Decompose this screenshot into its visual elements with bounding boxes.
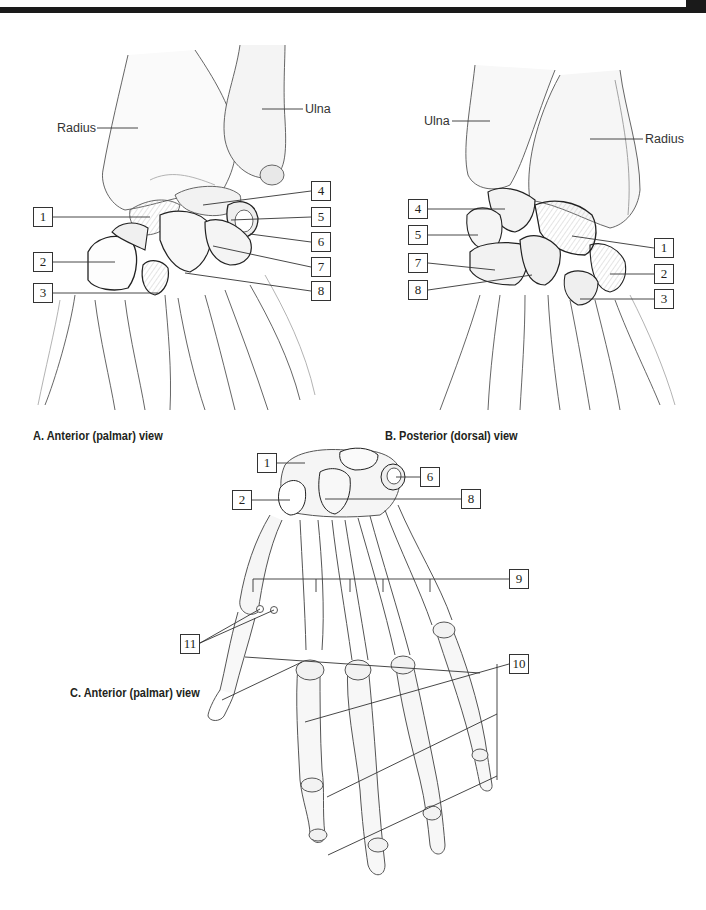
- label-radius-panel-a: Radius: [57, 121, 96, 135]
- caption-panel-b: B. Posterior (dorsal) view: [385, 429, 518, 443]
- callout-a-1: 1: [33, 207, 53, 227]
- panel-a-drawing: [38, 45, 315, 410]
- hand-wrist-illustration: [0, 0, 706, 910]
- callout-a-2: 2: [33, 252, 53, 272]
- callout-a-4: 4: [311, 181, 331, 201]
- callout-a-6: 6: [311, 232, 331, 252]
- callout-b-3: 3: [654, 289, 674, 309]
- callout-a-3: 3: [33, 283, 53, 303]
- panel-c-drawing: [208, 448, 492, 875]
- callout-c-6: 6: [420, 467, 440, 487]
- caption-panel-c: C. Anterior (palmar) view: [70, 686, 200, 700]
- callout-c-10: 10: [509, 654, 529, 674]
- label-radius-panel-b: Radius: [645, 132, 684, 146]
- callout-b-2: 2: [654, 264, 674, 284]
- callout-a-8: 8: [311, 281, 331, 301]
- callout-b-8: 8: [408, 280, 428, 300]
- callout-c-9: 9: [509, 569, 529, 589]
- caption-panel-a: A. Anterior (palmar) view: [33, 429, 163, 443]
- callout-c-8: 8: [461, 489, 481, 509]
- callout-a-7: 7: [311, 257, 331, 277]
- label-ulna-panel-a: Ulna: [305, 102, 331, 116]
- callout-c-11: 11: [180, 634, 200, 654]
- callout-b-7: 7: [408, 253, 428, 273]
- callout-c-2: 2: [232, 490, 252, 510]
- callout-c-1: 1: [257, 453, 277, 473]
- label-ulna-panel-b: Ulna: [424, 114, 450, 128]
- callout-a-5: 5: [311, 207, 331, 227]
- panel-b-drawing: [440, 65, 675, 410]
- callout-b-4: 4: [408, 199, 428, 219]
- callout-b-5: 5: [408, 225, 428, 245]
- callout-b-1: 1: [654, 238, 674, 258]
